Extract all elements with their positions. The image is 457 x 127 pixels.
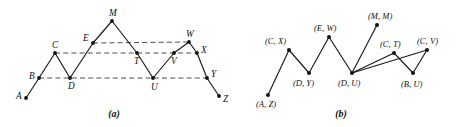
vertex-dot-CV [425,48,429,52]
vertex-label-BU: (B, U) [401,79,423,89]
vertex-label-DY: (D, Y) [293,78,314,88]
vertex-dot-MM [375,23,379,27]
vertex-dot-AZ [266,93,270,97]
panel-b-caption: (b) [335,108,347,120]
vertex-dot-W [187,40,191,44]
vertex-label-D: D [67,81,75,91]
edge-X-Y [197,53,207,78]
vertex-label-EW: (E, W) [314,23,337,33]
edge-DY-EW [309,37,329,73]
vertex-label-A: A [15,91,22,101]
edge-C-D [55,53,70,78]
vertex-dot-B [37,76,41,80]
vertex-label-V: V [171,56,178,66]
vertex-dot-V [172,51,176,55]
edge-W-X [189,42,197,53]
edge-D-E [70,43,93,78]
panel-a-caption: (a) [108,108,120,120]
edge-AZ-CX [268,50,289,95]
edge-CT-BU [394,53,413,73]
panel-a-vertex-labels: ABCDEMTUVWXYZ [15,8,229,104]
vertex-label-X: X [200,45,207,55]
vertex-dot-Z [217,94,221,98]
vertex-dot-DU [350,71,354,75]
vertex-label-W: W [186,29,195,39]
vertex-label-CX: (C, X) [265,36,286,46]
vertex-dot-BU [411,71,415,75]
vertex-label-M: M [108,8,118,18]
edge-EW-DU [329,37,352,73]
vertex-dot-E [91,41,95,45]
edge-A-B [26,78,39,98]
vertex-label-AZ: (A, Z) [256,99,276,109]
edge-CX-DY [289,50,309,73]
vertex-dot-CT [392,51,396,55]
vertex-dot-U [151,76,155,80]
vertex-dot-EW [327,35,331,39]
vertex-label-T: T [134,56,140,66]
vertex-label-CV: (C, V) [417,36,438,46]
vertex-label-Z: Z [223,94,229,104]
figure-container: ABCDEMTUVWXYZ (a) (A, Z)(C, X)(D, Y)(E, … [0,0,457,127]
vertex-label-DU: (D, U) [338,78,361,88]
edge-DU-MM [352,25,377,73]
guide-line-level-E-W [93,42,189,43]
edge-B-C [39,53,55,78]
edge-V-W [174,42,189,53]
vertex-label-Y: Y [211,69,217,79]
edge-E-M [93,21,112,43]
vertex-dot-T [135,51,139,55]
vertex-dot-DY [307,71,311,75]
vertex-label-MM: (M, M) [368,11,392,21]
vertex-dot-X [195,51,199,55]
vertex-label-E: E [82,33,89,43]
vertex-dot-Y [205,76,209,80]
vertex-label-C: C [52,40,59,50]
edge-T-U [137,53,153,78]
vertex-label-U: U [151,82,159,92]
vertex-dot-C [53,51,57,55]
vertex-dot-CX [287,48,291,52]
vertex-dot-M [110,19,114,23]
vertex-dot-D [68,76,72,80]
vertex-label-CT: (C, T) [380,39,401,49]
vertex-label-B: B [29,71,35,81]
panel-b-vertex-labels: (A, Z)(C, X)(D, Y)(E, W)(D, U)(M, M)(C, … [256,11,438,109]
edge-Y-Z [207,78,219,96]
figure-svg: ABCDEMTUVWXYZ (a) (A, Z)(C, X)(D, Y)(E, … [0,0,457,127]
edge-M-T [112,21,137,53]
vertex-dot-A [24,96,28,100]
edge-DU-CT [352,53,394,73]
